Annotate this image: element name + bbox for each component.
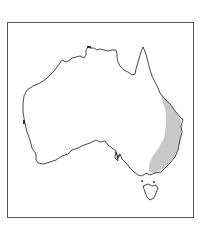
distribution-range-shading [149,95,181,173]
island-marker [153,181,155,183]
tasmania-coastline [143,184,158,200]
melville-island [87,46,91,48]
australia-map [0,0,201,231]
island-marker [141,180,143,182]
shark-bay-marker [23,120,25,124]
